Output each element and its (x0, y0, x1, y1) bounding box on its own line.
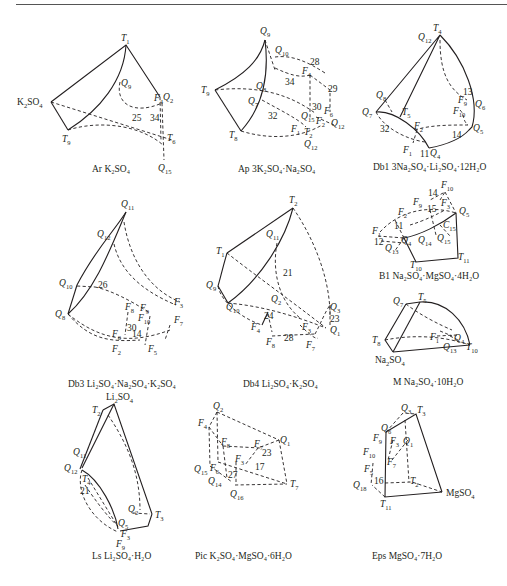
point-label: Q3 (401, 403, 411, 415)
field-number: 32 (380, 124, 390, 134)
point-label: T2 (289, 195, 298, 207)
point-label: K2SO4 (17, 97, 43, 109)
point-label: F4 (301, 66, 312, 78)
point-label: Q4 (454, 333, 465, 345)
field-number: 21 (80, 486, 90, 496)
field-number: 14 (428, 188, 438, 198)
point-label: T3 (155, 510, 164, 522)
point-label: F1 (371, 226, 381, 238)
point-label: MgSO4 (446, 488, 475, 500)
point-label: Q11 (73, 447, 86, 459)
panel-ls: Li2SO4T2Q11Q12T4Q2T3Q5F3F921Ls Li₂SO₄·H₂… (64, 392, 164, 561)
point-label: T8 (229, 130, 238, 142)
panel-caption: B1 Na₂SO₄·MgSO₄·4H₂O (379, 271, 479, 281)
point-label: F9 (115, 539, 125, 551)
point-label: T2 (410, 476, 419, 488)
dashed-boundary (217, 412, 218, 462)
field-number: 25 (132, 113, 142, 123)
point-label: Q2 (213, 401, 223, 413)
point-label: T8 (372, 335, 381, 347)
panel-caption: M Na₂SO₄·10H₂O (393, 377, 464, 387)
point-label: T2 (304, 127, 313, 139)
point-label: Q13 (385, 243, 398, 255)
point-label: T6 (167, 133, 176, 145)
field-number: 14 (452, 130, 462, 140)
point-label: T7 (290, 479, 299, 491)
panel-b1: F10F9F3Q5F2C15F1Q4Q14Q15Q13T10T111415111… (371, 180, 479, 281)
dashed-boundary (217, 412, 279, 440)
point-label: F6 (209, 463, 220, 475)
point-label: Q3 (330, 302, 340, 314)
point-label: F1 (429, 332, 439, 344)
point-label: F8 (265, 337, 275, 349)
solid-boundary (376, 35, 440, 117)
dashed-boundary (68, 125, 163, 145)
point-label: T9 (62, 134, 71, 146)
dashed-boundary (385, 100, 392, 112)
field-number: 34 (150, 113, 160, 123)
point-label: Q7 (393, 296, 404, 308)
point-label: F4 (197, 418, 208, 430)
solid-boundary (385, 304, 406, 352)
point-label: Q4 (430, 148, 441, 160)
field-number: 16 (374, 476, 384, 486)
field-number: 28 (284, 333, 294, 343)
dashed-boundary (293, 208, 330, 315)
solid-boundary (51, 102, 68, 130)
point-label: Q7 (248, 96, 259, 108)
dashed-boundary (227, 253, 326, 328)
point-label: Q15 (158, 163, 171, 175)
panel-ar: T1K2SO4Q9F4Q2T9T6Q152534Ar K₂SO₄ (17, 33, 176, 175)
point-label: Q14 (418, 235, 432, 247)
solid-boundary (228, 208, 293, 303)
point-label: T5 (402, 107, 411, 119)
field-number: 17 (255, 462, 265, 472)
point-label: Q12 (97, 229, 110, 241)
field-number: 23 (262, 448, 272, 458)
point-label: Q10 (59, 278, 72, 290)
panel-caption: Ar K₂SO₄ (92, 164, 130, 174)
point-label: F1 (290, 124, 300, 136)
solid-boundary (51, 45, 160, 102)
field-number: 34 (285, 77, 295, 87)
point-label: Q9 (206, 280, 216, 292)
point-label: Q1 (403, 436, 413, 448)
panel-caption: Ap 3K₂SO₄·Na₂SO₄ (238, 164, 315, 174)
dashed-boundary (279, 440, 287, 484)
solid-boundary (77, 212, 126, 285)
point-label: Q5 (473, 123, 483, 135)
point-label: F5 (147, 344, 157, 356)
point-label: T11 (458, 252, 470, 264)
dashed-boundary (124, 222, 180, 302)
point-label: F3 (173, 297, 183, 309)
field-number: 30 (312, 102, 322, 112)
point-label: F2 (111, 344, 121, 356)
point-label: Q7 (362, 107, 373, 119)
point-label: F6 (323, 106, 334, 118)
point-label: F2 (397, 207, 407, 219)
point-label: Q2 (163, 92, 173, 104)
point-label: Q5 (118, 518, 128, 530)
field-number: 13 (463, 87, 473, 97)
point-label: Q5 (459, 206, 469, 218)
field-number: 11 (394, 221, 403, 231)
point-label: T3 (417, 405, 426, 417)
point-label: Q9 (121, 78, 131, 90)
field-number: 24 (264, 311, 274, 321)
point-label: Q12 (331, 118, 344, 130)
dashed-boundary (218, 286, 262, 325)
point-label: Q18 (353, 480, 366, 492)
panel-caption: Ls Li₂SO₄·H₂O (92, 551, 151, 561)
solid-boundary (218, 253, 227, 286)
dashed-boundary (372, 485, 385, 497)
point-label: Q1 (330, 325, 340, 337)
point-label: F3 (234, 454, 244, 466)
panel-pic: Q2F4F8F7Q1F3Q15F6Q14T7Q16231727Pic K₂SO₄… (194, 401, 299, 561)
dashed-boundary (88, 478, 118, 527)
point-label: F8 (220, 437, 230, 449)
point-label: Q15 (301, 111, 314, 123)
dashed-boundary (209, 427, 210, 466)
dashed-boundary (108, 415, 140, 510)
panel-db3: Q11Q12Q10Q8F8F9F3F10F7F6F5F2263014Db3 Li… (55, 199, 184, 389)
solid-boundary (80, 410, 103, 469)
